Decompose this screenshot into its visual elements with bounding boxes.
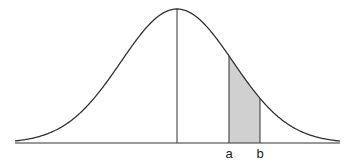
normal-curve-diagram: a b [0, 0, 353, 162]
diagram-canvas: a b [0, 0, 353, 162]
label-b: b [256, 146, 263, 161]
label-a: a [225, 146, 233, 161]
shaded-area-a-to-b [229, 56, 260, 143]
